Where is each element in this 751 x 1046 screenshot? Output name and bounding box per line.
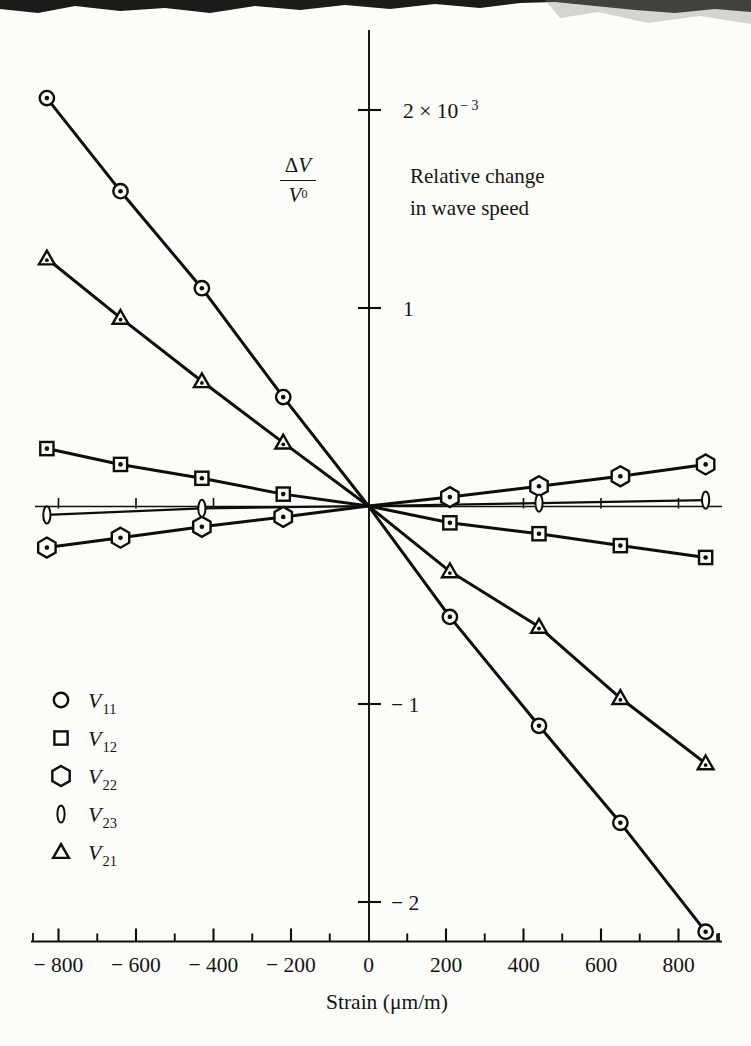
y-axis-label-denominator: V0: [271, 181, 325, 208]
marker-circle-V11: [443, 610, 457, 624]
marker-circle-V11: [613, 816, 627, 830]
marker-square-V12: [614, 539, 627, 552]
marker-circle-V11: [532, 719, 546, 733]
marker-circle-V11: [40, 91, 54, 105]
marker-ellipse-V23: [43, 506, 50, 523]
marker-hexagon-V22: [112, 528, 129, 548]
marker-hexagon-V22: [275, 507, 292, 527]
x-tick-label: − 600: [111, 953, 161, 977]
legend-label: V23: [88, 802, 117, 831]
x-tick-label: − 800: [34, 953, 84, 977]
legend-marker-triangle-icon: [53, 844, 69, 858]
legend-marker-ellipse-icon: [57, 805, 64, 822]
numerator-v: V: [298, 153, 311, 177]
series-line-V11: [47, 98, 706, 932]
y-tick-label: − 1: [391, 693, 419, 717]
marker-square-V12: [40, 442, 53, 455]
marker-square-V12: [443, 516, 456, 529]
delta-symbol: Δ: [285, 153, 299, 177]
description-line-1: Relative change: [410, 160, 545, 192]
marker-square-V12: [277, 488, 290, 501]
description-line-2: in wave speed: [410, 192, 545, 224]
legend-label: V22: [88, 764, 117, 793]
x-tick-label: − 400: [189, 953, 239, 977]
marker-ellipse-V23: [702, 491, 709, 508]
marker-ellipse-V23: [535, 494, 542, 511]
x-tick-label: 0: [363, 953, 374, 977]
legend-marker-hexagon-icon: [52, 766, 69, 786]
series-line-V12: [47, 449, 706, 558]
x-tick-label: 200: [430, 953, 462, 977]
marker-hexagon-V22: [697, 454, 714, 474]
y-tick-label: − 2: [391, 891, 419, 915]
marker-circle-V11: [113, 184, 127, 198]
chart-svg: − 800− 600− 400− 20002004006008002 × 10−…: [0, 0, 751, 1046]
marker-hexagon-V22: [38, 538, 55, 558]
marker-square-V12: [699, 551, 712, 564]
legend-marker-circle-icon: [54, 693, 68, 707]
figure-page: − 800− 600− 400− 20002004006008002 × 10−…: [0, 0, 751, 1046]
marker-hexagon-V22: [193, 517, 210, 537]
y-axis-label: ΔV V0: [271, 152, 325, 209]
y-tick-label: 2 × 10− 3: [403, 98, 479, 123]
chart-description: Relative change in wave speed: [410, 160, 545, 224]
legend-marker-square-icon: [54, 731, 67, 744]
marker-square-V12: [195, 472, 208, 485]
marker-hexagon-V22: [530, 476, 547, 496]
marker-hexagon-V22: [612, 466, 629, 486]
marker-square-V12: [114, 458, 127, 471]
denominator-v: V: [289, 183, 302, 207]
marker-circle-V11: [698, 925, 712, 939]
legend-label: V12: [88, 726, 117, 755]
x-tick-label: − 200: [266, 953, 316, 977]
x-tick-label: 600: [585, 953, 617, 977]
legend-label: V11: [88, 688, 116, 717]
legend-label: V21: [88, 840, 117, 869]
scan-artifact-smudge: [545, 0, 751, 24]
x-tick-label: 400: [507, 953, 539, 977]
y-axis-label-numerator: ΔV: [280, 152, 316, 181]
marker-ellipse-V23: [198, 500, 205, 517]
marker-circle-V11: [195, 281, 209, 295]
marker-triangle-V21: [531, 619, 547, 633]
marker-square-V12: [532, 527, 545, 540]
marker-hexagon-V22: [441, 487, 458, 507]
marker-triangle-V21: [39, 251, 55, 265]
marker-circle-V11: [276, 390, 290, 404]
x-axis-title: Strain (μm/m): [326, 990, 448, 1014]
y-tick-label: 1: [403, 297, 414, 321]
x-tick-label: 800: [662, 953, 694, 977]
denominator-superscript: 0: [301, 187, 307, 201]
